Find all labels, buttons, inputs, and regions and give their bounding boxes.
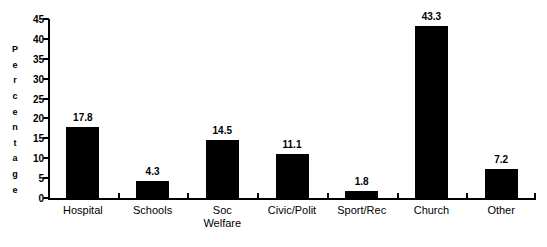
bar-value-label: 11.1 <box>283 139 302 150</box>
x-axis-separator-tick <box>397 193 399 200</box>
bar-value-label: 7.2 <box>494 154 508 165</box>
x-axis-category-label: Church <box>414 204 449 217</box>
y-axis-tick-mark <box>43 117 49 119</box>
x-axis-category-label: Schools <box>133 204 172 217</box>
y-axis-title-letter: n <box>12 120 18 136</box>
bar-value-label: 43.3 <box>422 11 441 22</box>
y-axis-tick-mark <box>43 177 49 179</box>
x-axis-separator-tick <box>466 193 468 200</box>
y-axis-title-letter: a <box>12 151 17 167</box>
y-axis-tick-mark <box>43 197 49 199</box>
bar <box>276 154 309 198</box>
x-axis-category-label: Sport/Rec <box>337 204 386 217</box>
bar <box>345 191 378 198</box>
y-axis-title-letter: g <box>12 167 18 183</box>
x-axis-category-label: Civic/Polit <box>268 204 316 217</box>
y-axis-title-letter: e <box>12 58 17 74</box>
bar <box>136 181 169 198</box>
y-axis-title-letter: P <box>12 42 18 58</box>
bar-value-label: 1.8 <box>355 176 369 187</box>
y-axis-title-letter: c <box>12 89 17 105</box>
bar-chart: Percentage 051015202530354045 17.8Hospit… <box>0 0 547 247</box>
bar <box>485 169 518 198</box>
y-axis-title-letter: e <box>12 104 17 120</box>
bar <box>206 140 239 198</box>
y-axis-tick-mark <box>43 137 49 139</box>
y-axis-tick-mark <box>43 38 49 40</box>
x-axis-separator-tick <box>118 193 120 200</box>
bar-value-label: 14.5 <box>213 125 232 136</box>
y-axis-line <box>48 19 50 200</box>
x-axis-category-label: Hospital <box>63 204 103 217</box>
x-axis-separator-tick <box>257 193 259 200</box>
bar-value-label: 17.8 <box>73 112 92 123</box>
y-axis-tick-mark <box>43 18 49 20</box>
y-axis-title-letter: t <box>14 136 17 152</box>
x-axis-end-tick <box>534 193 536 200</box>
x-axis-separator-tick <box>327 193 329 200</box>
y-axis-title-letter: e <box>12 182 17 198</box>
y-axis-title-letter: r <box>13 73 17 89</box>
y-axis-tick-mark <box>43 78 49 80</box>
y-axis-tick-mark <box>43 58 49 60</box>
x-axis-line <box>48 198 536 200</box>
bar <box>415 26 448 198</box>
bar-value-label: 4.3 <box>146 166 160 177</box>
y-axis-tick-mark <box>43 98 49 100</box>
x-axis-category-label: Other <box>487 204 515 217</box>
x-axis-category-label: Soc Welfare <box>203 204 241 230</box>
y-axis-tick-labels: 051015202530354045 <box>22 0 44 247</box>
y-axis-tick-mark <box>43 157 49 159</box>
bar <box>66 127 99 198</box>
x-axis-separator-tick <box>187 193 189 200</box>
y-axis-title: Percentage <box>8 42 22 198</box>
